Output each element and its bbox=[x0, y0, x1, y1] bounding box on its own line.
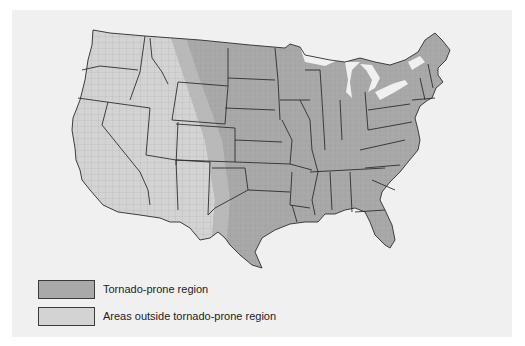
legend: Tornado-prone region Areas outside torna… bbox=[38, 276, 276, 330]
legend-label: Areas outside tornado-prone region bbox=[103, 310, 276, 322]
legend-swatch-light bbox=[38, 307, 95, 326]
legend-label: Tornado-prone region bbox=[103, 283, 208, 295]
legend-swatch-dark bbox=[38, 280, 95, 299]
legend-item-tornado-prone: Tornado-prone region bbox=[38, 276, 276, 302]
legend-item-outside: Areas outside tornado-prone region bbox=[38, 303, 276, 329]
